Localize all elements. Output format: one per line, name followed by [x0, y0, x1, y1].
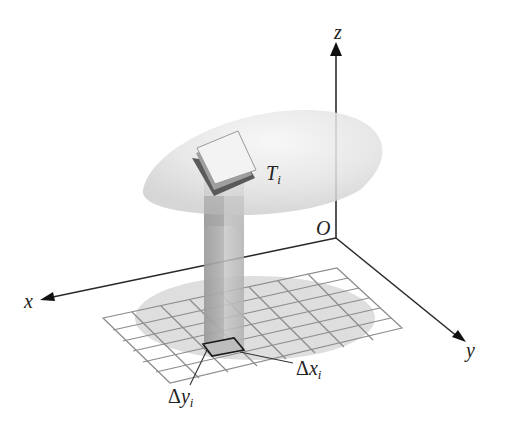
patch-label: Ti [266, 163, 281, 186]
z-axis-arrowhead-icon [330, 42, 342, 56]
delta-y-label: Δyi [168, 386, 193, 409]
x-axis-label: x [24, 291, 33, 311]
y-axis-label: y [466, 340, 475, 360]
z-axis-label: z [334, 22, 342, 42]
column-upper [204, 196, 244, 226]
x-axis-arrowhead-icon [40, 292, 55, 301]
surface-area-figure: z x y O Ti Δxi Δyi [0, 0, 508, 423]
y-axis-arrowhead-icon [452, 330, 466, 342]
region-shadow [135, 276, 375, 360]
origin-label: O [316, 218, 330, 238]
surface-dome [143, 110, 383, 215]
delta-x-label: Δxi [296, 358, 321, 381]
